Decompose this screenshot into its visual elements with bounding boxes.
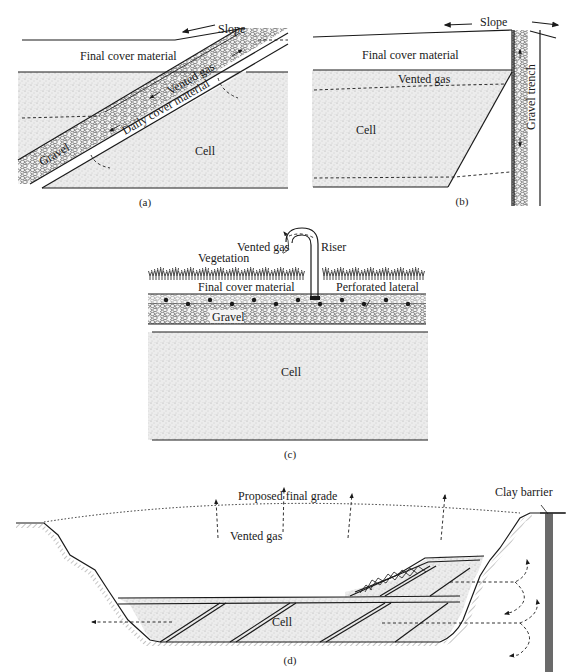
grass-tuft (224, 271, 227, 280)
grass-tuft (248, 268, 251, 280)
grass-tuft (185, 269, 188, 280)
grass-tuft (215, 269, 218, 280)
grass-tuft (254, 271, 257, 280)
label-slope: Slope (218, 22, 245, 36)
caption-d: (d) (284, 654, 297, 667)
grass-tuft (188, 268, 191, 280)
label-vegetation: Vegetation (198, 251, 249, 265)
grass-tuft (275, 269, 278, 280)
grass-tuft (344, 271, 347, 280)
perforated-lateral-pipe (406, 302, 410, 306)
panel-d: Proposed final grade Vented gas Clay bar… (16, 485, 566, 672)
grass-tuft (296, 267, 299, 280)
grass-tuft (206, 267, 209, 280)
label-final-cover: Final cover material (362, 48, 459, 62)
panel-a: Slope Final cover material Vented gas Da… (18, 22, 288, 209)
perforated-lateral-pipe (318, 302, 322, 306)
label-vented-gas: Vented gas (230, 529, 283, 543)
grass-tuft (419, 271, 422, 280)
riser-pipe (292, 235, 311, 298)
grass-tuft (257, 270, 260, 280)
grass-tuft (377, 270, 380, 280)
slope-arrow-left-icon (445, 24, 472, 25)
label-gravel-trench: Gravel trench (524, 64, 538, 130)
perforated-lateral-pipe (252, 298, 256, 302)
caption-c: (c) (284, 448, 297, 461)
grass-tuft (389, 271, 392, 280)
vegetation-strip (149, 267, 425, 280)
grass-tuft (197, 270, 200, 280)
perforated-lateral-pipe (340, 298, 344, 302)
cell-area (312, 70, 512, 187)
grass-tuft (203, 268, 206, 280)
perforated-lateral-pipe (208, 298, 212, 302)
grass-tuft (164, 271, 167, 280)
caption-b: (b) (456, 195, 469, 208)
grass-tuft (170, 269, 173, 280)
perforated-lateral-pipe (362, 302, 366, 306)
grass-tuft (173, 268, 176, 280)
grass-tuft (329, 271, 332, 280)
caption-a: (a) (139, 196, 152, 209)
slope-arrow-right-icon (532, 22, 558, 25)
grass-tuft (194, 271, 197, 280)
grass-tuft (212, 270, 215, 280)
grass-tuft (356, 267, 359, 280)
grass-tuft (269, 271, 272, 280)
perforated-lateral-pipe (384, 298, 388, 302)
label-final-cover: Final cover material (80, 49, 177, 63)
grass-tuft (395, 269, 398, 280)
grass-tuft (287, 270, 290, 280)
pit-left-slope (16, 523, 160, 642)
grass-tuft (278, 268, 281, 280)
grass-tuft (191, 267, 194, 280)
grass-tuft (218, 268, 221, 280)
grass-tuft (272, 270, 275, 280)
perforated-lateral-pipe (296, 298, 300, 302)
grass-tuft (266, 267, 269, 280)
grass-tuft (335, 269, 338, 280)
label-final-cover: Final cover material (198, 280, 295, 294)
grass-tuft (284, 271, 287, 280)
label-cell: Cell (195, 144, 216, 158)
grass-tuft (422, 270, 425, 280)
grass-tuft (398, 268, 401, 280)
panel-b: Slope Final cover material Vented gas Ce… (312, 15, 558, 208)
label-clay-barrier: Clay barrier (495, 485, 553, 499)
label-slope: Slope (480, 15, 507, 29)
grass-tuft (401, 267, 404, 280)
proposed-final-grade-line (44, 503, 520, 522)
grass-tuft (230, 269, 233, 280)
grass-tuft (161, 267, 164, 280)
grass-tuft (167, 270, 170, 280)
label-proposed-final-grade: Proposed final grade (238, 489, 337, 503)
grass-tuft (290, 269, 293, 280)
grass-tuft (155, 269, 158, 280)
grass-tuft (236, 267, 239, 280)
grass-tuft (242, 270, 245, 280)
landfill-gas-venting-figure: Slope Final cover material Vented gas Da… (0, 0, 575, 672)
grass-tuft (149, 271, 152, 280)
grass-tuft (245, 269, 248, 280)
gravel-layer (148, 304, 426, 324)
vented-gas-arrow-icon (441, 495, 445, 540)
slope-arrow-icon (183, 25, 215, 32)
grass-tuft (368, 268, 371, 280)
panel-c: Vented gas Riser Vegetation Final cover … (148, 228, 428, 461)
lateral-gas-arrow-icon (510, 623, 530, 656)
grass-tuft (416, 267, 419, 280)
grass-tuft (359, 271, 362, 280)
grass-tuft (152, 270, 155, 280)
grass-tuft (293, 268, 296, 280)
label-vented-gas: Vented gas (398, 72, 451, 86)
vented-gas-arrow-icon (216, 500, 218, 538)
grass-tuft (221, 267, 224, 280)
label-gravel: Gravel (212, 310, 245, 324)
grass-tuft (251, 267, 254, 280)
cell-area (148, 332, 428, 440)
perforated-lateral-pipe (274, 302, 278, 306)
grass-tuft (281, 267, 284, 280)
grass-tuft (383, 268, 386, 280)
grass-tuft (410, 269, 413, 280)
label-riser: Riser (321, 240, 346, 254)
